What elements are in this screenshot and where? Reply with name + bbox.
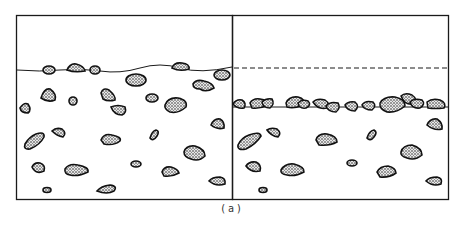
left-panel xyxy=(17,63,232,193)
right-panel xyxy=(233,68,448,193)
particles-left xyxy=(20,63,230,193)
particles-right xyxy=(238,119,442,193)
figure-caption: (a) xyxy=(0,203,464,214)
aggregated-particle-layer xyxy=(233,94,445,112)
diagram xyxy=(0,0,464,225)
